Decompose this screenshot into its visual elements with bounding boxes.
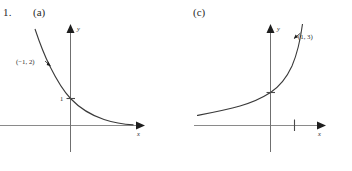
x-axis-arrowhead-a: [136, 122, 145, 130]
x-axis-label-a: x: [136, 130, 140, 137]
point-label-c: (1, 3): [298, 33, 313, 41]
curve-growth-c: [197, 24, 303, 116]
x-axis-arrowhead-c: [317, 122, 326, 130]
y-axis-arrowhead-c: [267, 24, 275, 33]
curve-decay-a: [35, 29, 134, 125]
y-axis-label-a: y: [76, 25, 80, 32]
worksheet-page: 1. (a) (c) 1 (−1, 2) y x: [0, 0, 352, 171]
figure-a: 1 (−1, 2) y x: [0, 0, 176, 171]
y-intercept-label-a: 1: [60, 95, 63, 102]
figure-c: (1, 3) y x: [176, 0, 352, 171]
point-pointer-arrowhead-a: [47, 62, 51, 67]
point-label-a: (−1, 2): [16, 58, 35, 66]
graph-c-canvas: (1, 3) y x: [176, 0, 352, 171]
graph-a-canvas: 1 (−1, 2) y x: [0, 0, 176, 171]
x-axis-label-c: x: [317, 130, 321, 137]
y-axis-label-c: y: [276, 25, 280, 32]
y-axis-arrowhead-a: [67, 24, 75, 33]
